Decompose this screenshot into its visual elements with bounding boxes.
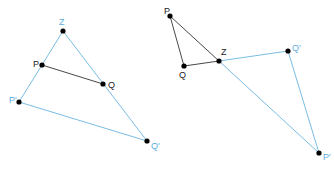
point-p	[39, 62, 44, 67]
segment-p-prime-q-prime	[19, 102, 147, 141]
label-q-prime: Q'	[292, 43, 301, 53]
point-q	[181, 63, 186, 68]
label-p: P	[33, 59, 39, 69]
point-z	[216, 58, 221, 63]
segment-z-q-prime	[219, 51, 288, 61]
label-z: Z	[221, 47, 227, 57]
point-q	[100, 81, 105, 86]
point-p-prime	[316, 150, 321, 155]
point-z	[60, 28, 65, 33]
point-p-prime	[16, 99, 21, 104]
segment-q-prime-p-prime	[288, 51, 319, 153]
segment-z-p-prime	[219, 61, 319, 153]
label-p: P	[164, 6, 170, 16]
label-q-prime: Q'	[151, 141, 160, 151]
diagram-canvas: Z P Q P' Q' P Q Z Q' P'	[0, 0, 334, 170]
point-q-prime	[144, 138, 149, 143]
figure-negative-enlargement: P Q Z Q' P'	[164, 6, 331, 162]
point-q-prime	[285, 48, 290, 53]
label-q: Q	[108, 80, 115, 90]
label-p-prime: P'	[323, 152, 331, 162]
segment-z-q-prime	[63, 31, 147, 141]
segment-q-z	[184, 61, 219, 66]
label-z: Z	[59, 17, 65, 27]
figure-enlargement: Z P Q P' Q'	[9, 17, 160, 151]
label-p-prime: P'	[9, 95, 17, 105]
segment-p-z	[170, 16, 219, 61]
segment-p-q	[42, 65, 103, 84]
segment-p-q	[170, 16, 184, 66]
label-q: Q	[179, 70, 186, 80]
